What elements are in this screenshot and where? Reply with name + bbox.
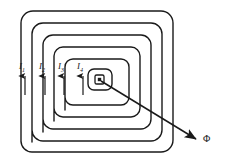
flux-symbol-label: Φ <box>203 134 210 144</box>
coil-turns <box>21 11 173 152</box>
flux-pointer-line <box>101 81 196 139</box>
flux-center-inner-dot <box>98 78 101 81</box>
current-label-2: I2 <box>39 62 45 73</box>
coil-spiral-graphic <box>0 0 226 164</box>
current-label-1: I1 <box>19 62 25 73</box>
current-label-4: I4 <box>77 62 83 73</box>
coil-turn-1 <box>21 11 173 152</box>
coil-turn-2 <box>32 23 162 142</box>
current-label-3: I3 <box>58 62 64 73</box>
physics-diagram-spiral-inductor: I1 I2 I3 I4 Φ <box>0 0 226 164</box>
